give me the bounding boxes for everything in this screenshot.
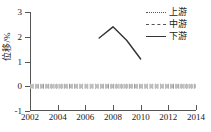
legend-swatch-solid-icon <box>146 32 166 41</box>
chart-container: 位移/% 3210-1 2002200420062008201020122014… <box>0 0 211 132</box>
x-tick-label: 2004 <box>43 113 73 122</box>
legend-label: 中游 <box>169 20 187 29</box>
x-tick-label: 2008 <box>98 113 128 122</box>
legend-item-下游[interactable]: 下游 <box>146 30 208 42</box>
x-tick-label: 2014 <box>181 113 211 122</box>
y-tick-label: 1 <box>8 58 22 67</box>
legend-label: 上游 <box>169 8 187 17</box>
legend-label: 下游 <box>169 32 187 41</box>
y-tick-label: 3 <box>8 8 22 17</box>
x-tick-label: 2002 <box>15 113 45 122</box>
x-tick-label: 2010 <box>126 113 156 122</box>
series-line-下游 <box>99 27 141 59</box>
legend-item-中游[interactable]: 中游 <box>146 18 208 30</box>
legend-swatch-dotted-icon <box>146 8 166 17</box>
y-tick-label: 0 <box>8 82 22 91</box>
legend: 上游中游下游 <box>146 6 208 42</box>
legend-item-上游[interactable]: 上游 <box>146 6 208 18</box>
legend-swatch-dashed-icon <box>146 20 166 29</box>
x-tick-label: 2006 <box>70 113 100 122</box>
y-tick-label: 2 <box>8 33 22 42</box>
x-tick-mark <box>196 105 197 110</box>
x-tick-label: 2012 <box>153 113 183 122</box>
